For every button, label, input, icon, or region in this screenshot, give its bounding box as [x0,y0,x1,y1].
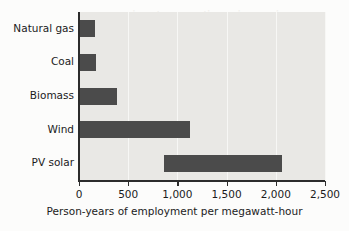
category-label: PV solar [0,156,74,168]
x-tick-label: 500 [118,188,138,200]
bar [79,88,117,105]
x-axis-title: Person-years of employment per megawatt-… [0,205,349,217]
gridline [128,12,129,180]
plot-area [79,12,325,180]
bar-chart-figure: jog pni nenitnoo nuta ni lsoi gniaoo Nat… [0,0,349,231]
bar [79,54,96,71]
category-label: Wind [0,123,74,135]
x-axis-line [78,180,325,182]
y-axis-line [78,12,80,180]
x-tick-label: 1,000 [162,188,192,200]
x-tick-mark [177,181,178,186]
bar [79,121,190,138]
x-tick-label: 2,500 [310,188,340,200]
category-label: Coal [0,55,74,67]
x-tick-mark [276,181,277,186]
x-tick-mark [227,181,228,186]
category-label: Biomass [0,89,74,101]
bar [164,155,282,172]
x-tick-mark [79,181,80,186]
x-tick-label: 1,500 [212,188,242,200]
x-tick-label: 0 [76,188,83,200]
x-tick-label: 2,000 [261,188,291,200]
x-tick-mark [325,181,326,186]
bar [79,20,95,37]
gridline [325,12,326,180]
x-tick-mark [128,181,129,186]
category-label: Natural gas [0,22,74,34]
